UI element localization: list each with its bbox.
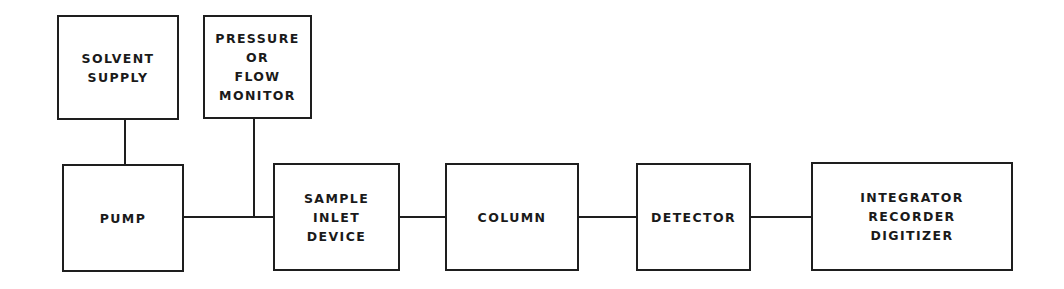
column-label: COLUMN bbox=[478, 208, 547, 227]
detector-label: DETECTOR bbox=[651, 208, 736, 227]
connector-monitor-to-line bbox=[253, 119, 255, 217]
column-block: COLUMN bbox=[445, 163, 579, 271]
pump-block: PUMP bbox=[62, 164, 184, 272]
connector-pump-to-sample-inlet bbox=[184, 216, 273, 218]
sample-inlet-device-label: SAMPLE INLET DEVICE bbox=[304, 189, 369, 246]
pressure-flow-monitor-label: PRESSURE OR FLOW MONITOR bbox=[215, 29, 299, 105]
connector-column-to-detector bbox=[579, 216, 636, 218]
integrator-recorder-digitizer-block: INTEGRATOR RECORDER DIGITIZER bbox=[811, 162, 1013, 271]
connector-sample-inlet-to-column bbox=[400, 216, 445, 218]
integrator-recorder-digitizer-label: INTEGRATOR RECORDER DIGITIZER bbox=[860, 188, 964, 245]
pressure-flow-monitor-block: PRESSURE OR FLOW MONITOR bbox=[203, 15, 312, 119]
sample-inlet-device-block: SAMPLE INLET DEVICE bbox=[273, 163, 400, 271]
pump-label: PUMP bbox=[100, 209, 147, 228]
detector-block: DETECTOR bbox=[636, 163, 751, 271]
connector-solvent-to-pump bbox=[124, 120, 126, 164]
solvent-supply-block: SOLVENT SUPPLY bbox=[57, 15, 179, 120]
solvent-supply-label: SOLVENT SUPPLY bbox=[82, 49, 155, 87]
connector-detector-to-integrator bbox=[751, 216, 811, 218]
